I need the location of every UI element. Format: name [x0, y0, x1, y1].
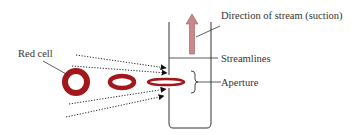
label-direction-of-stream: Direction of stream (suction) — [221, 10, 343, 22]
label-streamlines: Streamlines — [221, 53, 271, 64]
red-cells — [65, 71, 184, 93]
red-cell-round — [65, 71, 87, 93]
label-aperture: Aperture — [221, 77, 259, 88]
suction-arrow-icon — [186, 14, 198, 54]
coulter-aperture-diagram: Red cell Direction of stream (suction) S… — [0, 0, 355, 135]
diagram-canvas: Red cell Direction of stream (suction) S… — [0, 0, 355, 135]
aperture-bracket — [191, 71, 198, 93]
red-cell-elongated — [148, 79, 184, 85]
label-red-cell: Red cell — [18, 48, 53, 59]
red-cell-flattened — [110, 76, 134, 88]
